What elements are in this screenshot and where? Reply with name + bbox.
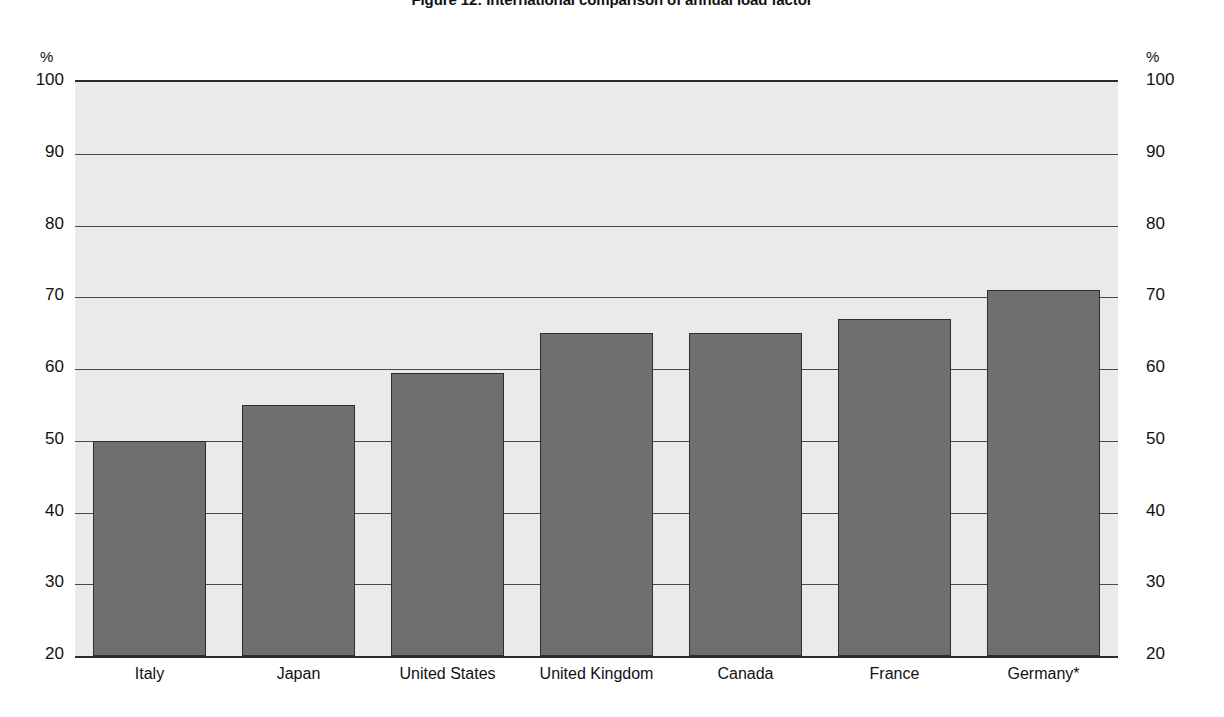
y-tick-label-right-40: 40 <box>1146 502 1165 519</box>
y-tick-label-right-70: 70 <box>1146 286 1165 303</box>
y-tick-label-left-70: 70 <box>45 286 64 303</box>
y-tick-label-right-20: 20 <box>1146 645 1165 662</box>
bar-france <box>838 319 950 656</box>
x-axis-category-labels: ItalyJapanUnited StatesUnited KingdomCan… <box>75 665 1118 691</box>
x-tick-label-italy: Italy <box>75 665 224 683</box>
plot-area <box>75 80 1118 658</box>
y-tick-label-left-100: 100 <box>36 71 64 88</box>
bar-series <box>75 82 1118 656</box>
bar-united-states <box>391 373 503 656</box>
y-tick-label-right-30: 30 <box>1146 573 1165 590</box>
bar-italy <box>93 441 205 656</box>
x-tick-label-united-states: United States <box>373 665 522 683</box>
figure-container: Figure 12: International comparison of a… <box>0 0 1224 717</box>
y-tick-label-right-50: 50 <box>1146 430 1165 447</box>
y-tick-label-right-80: 80 <box>1146 215 1165 232</box>
y-tick-label-right-100: 100 <box>1146 71 1174 88</box>
x-tick-label-france: France <box>820 665 969 683</box>
y-tick-label-left-80: 80 <box>45 215 64 232</box>
x-tick-label-germany: Germany* <box>969 665 1118 683</box>
bar-japan <box>242 405 354 656</box>
y-tick-label-left-60: 60 <box>45 358 64 375</box>
y-tick-label-left-90: 90 <box>45 143 64 160</box>
y-axis-unit-left: % <box>40 49 53 64</box>
bar-united-kingdom <box>540 333 652 656</box>
y-tick-label-right-90: 90 <box>1146 143 1165 160</box>
y-tick-label-left-50: 50 <box>45 430 64 447</box>
y-tick-label-left-30: 30 <box>45 573 64 590</box>
x-tick-label-united-kingdom: United Kingdom <box>522 665 671 683</box>
bar-canada <box>689 333 801 656</box>
x-tick-label-canada: Canada <box>671 665 820 683</box>
y-axis-unit-right: % <box>1146 49 1159 64</box>
y-tick-label-left-20: 20 <box>45 645 64 662</box>
y-tick-label-right-60: 60 <box>1146 358 1165 375</box>
bar-germany <box>987 290 1099 656</box>
chart-title: Figure 12: International comparison of a… <box>0 0 1224 8</box>
x-tick-label-japan: Japan <box>224 665 373 683</box>
y-tick-label-left-40: 40 <box>45 502 64 519</box>
